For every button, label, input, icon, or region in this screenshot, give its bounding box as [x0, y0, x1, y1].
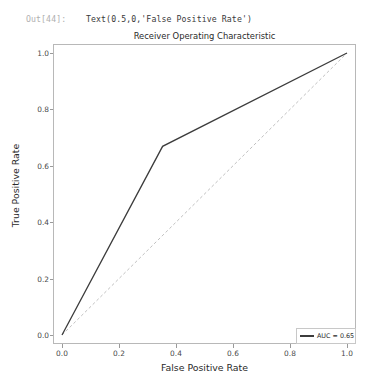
x-tick-mark: [290, 344, 291, 348]
screenshot-root: Out[44]: Text(0.5,0,'False Positive Rate…: [0, 0, 376, 386]
x-tick-mark: [176, 344, 177, 348]
x-tick-label: 1.0: [327, 349, 367, 358]
x-tick-label: 0.6: [213, 349, 253, 358]
roc-line-swatch: [300, 335, 314, 336]
y-axis-label: True Positive Rate: [10, 126, 21, 246]
x-tick-mark: [62, 344, 63, 348]
x-tick-mark: [233, 344, 234, 348]
x-axis-label: False Positive Rate: [53, 362, 356, 373]
chart-legend: AUC = 0.65: [296, 328, 356, 344]
x-tick-label: 0.8: [270, 349, 310, 358]
x-tick-label: 0.2: [99, 349, 139, 358]
matplotlib-figure: Receiver Operating Characteristic 0.00.2…: [0, 0, 376, 386]
x-tick-mark: [347, 344, 348, 348]
x-tick-label: 0.0: [42, 349, 82, 358]
x-tick-label: 0.4: [156, 349, 196, 358]
legend-entry-label: AUC = 0.65: [317, 332, 354, 340]
x-tick-mark: [119, 344, 120, 348]
